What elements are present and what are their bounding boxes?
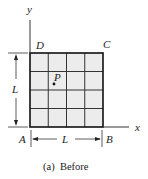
square-element-diagram: y x D C A B P L L (a) Before xyxy=(0,0,148,179)
arrow-up-icon xyxy=(14,54,18,60)
figure-caption: (a) Before xyxy=(43,161,89,173)
height-label: L xyxy=(11,83,18,95)
arrow-left-icon xyxy=(32,137,38,141)
corner-c-label: C xyxy=(103,38,111,50)
corner-a-label: A xyxy=(18,133,26,145)
arrow-down-icon xyxy=(14,120,18,126)
y-axis-label: y xyxy=(26,3,32,15)
width-label: L xyxy=(61,133,68,145)
corner-b-label: B xyxy=(106,133,113,145)
point-p-label: P xyxy=(53,71,61,83)
arrow-right-icon xyxy=(95,137,101,141)
point-p-marker xyxy=(53,83,56,86)
x-axis-label: x xyxy=(134,121,140,133)
corner-d-label: D xyxy=(35,39,44,51)
